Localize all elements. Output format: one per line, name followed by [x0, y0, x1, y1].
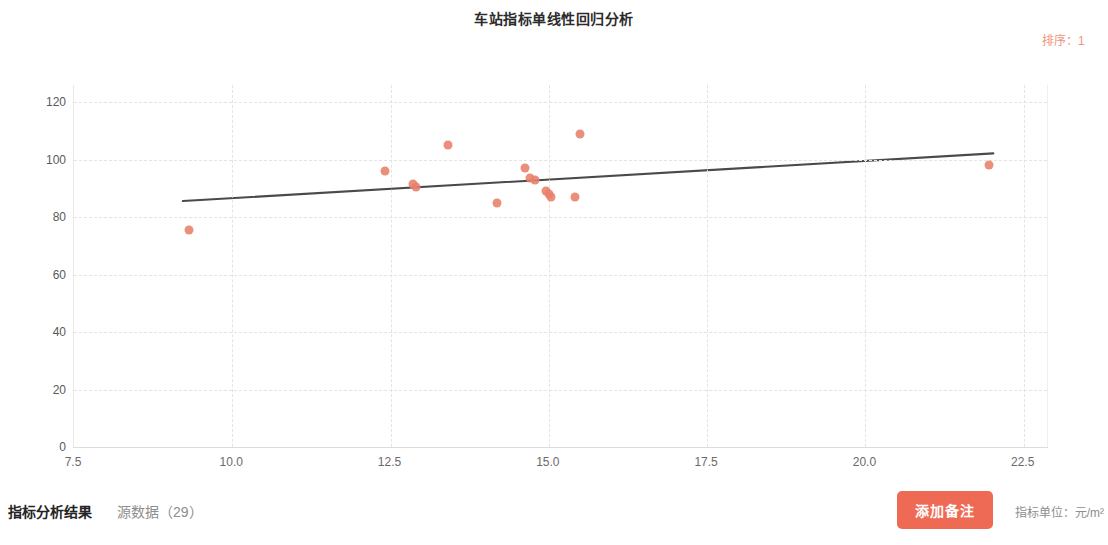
y-axis-tick-label: 80	[8, 210, 66, 224]
gridline-vertical	[232, 85, 233, 447]
scatter-point[interactable]	[381, 167, 390, 176]
x-axis-tick-label: 15.0	[536, 455, 559, 469]
gridline-horizontal	[74, 217, 1047, 218]
gridline-horizontal	[74, 102, 1047, 103]
x-axis-tick-label: 12.5	[378, 455, 401, 469]
x-axis-tick-label: 17.5	[694, 455, 717, 469]
gridline-horizontal	[74, 390, 1047, 391]
regression-line	[74, 85, 1049, 447]
y-axis-tick-label: 40	[8, 325, 66, 339]
x-axis-tick-label: 22.5	[1011, 455, 1034, 469]
scatter-point[interactable]	[411, 182, 420, 191]
footer-bar: 指标分析结果 源数据（29） 添加备注 指标单位：元/m²	[0, 483, 1108, 545]
y-axis-tick-label: 60	[8, 268, 66, 282]
gridline-vertical	[391, 85, 392, 447]
sort-label: 排序：1	[1038, 31, 1108, 48]
y-axis-tick-label: 0	[8, 440, 66, 454]
scatter-point[interactable]	[443, 141, 452, 150]
x-axis-line	[73, 447, 1048, 448]
gridline-horizontal	[74, 275, 1047, 276]
scatter-point[interactable]	[571, 193, 580, 202]
y-axis-ticks: 020406080100120	[0, 0, 66, 545]
scatter-point[interactable]	[530, 175, 539, 184]
gridline-horizontal	[74, 160, 1047, 161]
add-note-button[interactable]: 添加备注	[897, 491, 993, 529]
result-title: 指标分析结果	[8, 501, 92, 521]
chart-page: 车站指标单线性回归分析 排序：1 020406080100120 指标分析结果 …	[0, 0, 1108, 545]
gridline-vertical	[1024, 85, 1025, 447]
scatter-point[interactable]	[576, 129, 585, 138]
scatter-point[interactable]	[492, 198, 501, 207]
unit-label: 指标单位：元/m²	[1015, 503, 1104, 520]
x-axis-tick-label: 20.0	[853, 455, 876, 469]
gridline-vertical	[549, 85, 550, 447]
gridline-horizontal	[74, 332, 1047, 333]
x-axis-tick-label: 7.5	[65, 455, 82, 469]
plot-area	[73, 85, 1048, 447]
gridline-vertical	[865, 85, 866, 447]
scatter-point[interactable]	[185, 226, 194, 235]
x-axis-tick-label: 10.0	[220, 455, 243, 469]
gridline-vertical	[707, 85, 708, 447]
scatter-point[interactable]	[547, 193, 556, 202]
y-axis-tick-label: 100	[8, 153, 66, 167]
scatter-point[interactable]	[520, 164, 529, 173]
y-axis-tick-label: 20	[8, 383, 66, 397]
scatter-point[interactable]	[985, 161, 994, 170]
y-axis-tick-label: 120	[8, 95, 66, 109]
page-title: 车站指标单线性回归分析	[0, 8, 1108, 28]
source-data-link[interactable]: 源数据（29）	[117, 501, 203, 521]
